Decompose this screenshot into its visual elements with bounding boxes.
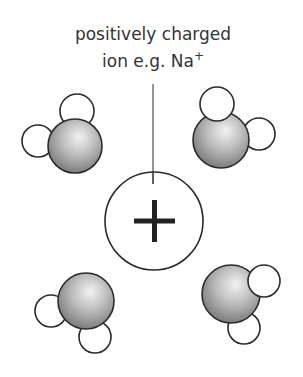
- sodium-ion: [105, 172, 203, 270]
- water-bottom-left: [35, 273, 114, 353]
- plus-icon: [134, 200, 175, 242]
- hydration-diagram: positively charged ion e.g. Na+: [0, 0, 303, 377]
- water-top-left: [22, 94, 102, 173]
- ion-charge-superscript: +: [194, 49, 204, 63]
- hydrogen-atom: [248, 265, 280, 297]
- oxygen-atom: [48, 119, 102, 173]
- water-top-right: [193, 87, 275, 168]
- ion-label-line1: positively charged: [75, 24, 231, 44]
- water-bottom-right: [202, 265, 280, 344]
- oxygen-atom: [58, 273, 114, 329]
- hydrogen-atom: [200, 87, 234, 121]
- ion-label-line2: ion e.g. Na+: [102, 49, 204, 71]
- ion-label-prefix: ion e.g. Na: [102, 51, 194, 71]
